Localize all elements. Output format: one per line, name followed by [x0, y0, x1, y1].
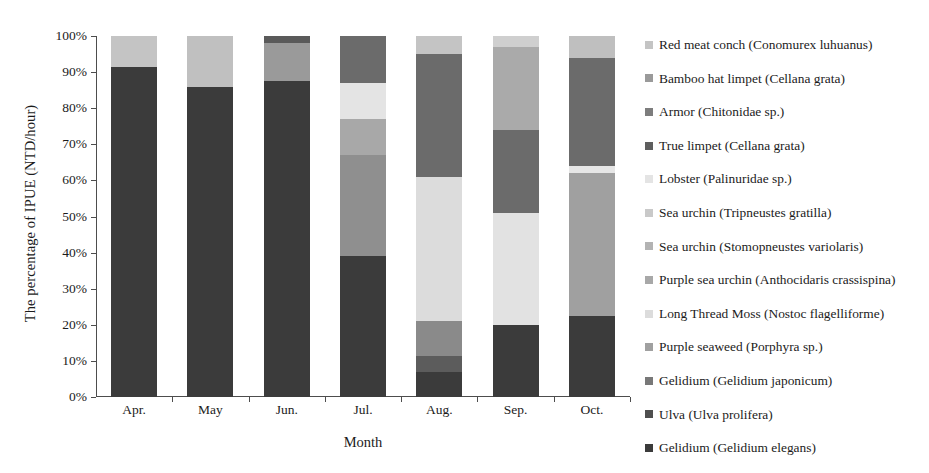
legend-item[interactable]: Purple sea urchin (Anthocidaris crassisp… — [645, 263, 929, 297]
legend-swatch-icon — [645, 74, 653, 82]
legend-label: True limpet (Cellana grata) — [659, 139, 805, 152]
bar-aug[interactable] — [416, 36, 462, 397]
legend-item[interactable]: Purple seaweed (Porphyra sp.) — [645, 330, 929, 364]
bar-segment[interactable] — [111, 67, 157, 397]
bar-segment[interactable] — [569, 36, 615, 58]
bar-segment[interactable] — [569, 166, 615, 173]
bar-segment[interactable] — [493, 36, 539, 47]
y-tick-label: 10% — [62, 354, 87, 368]
chart-legend: Red meat conch (Conomurex luhuanus)Bambo… — [645, 28, 929, 465]
legend-label: Gelidium (Gelidium japonicum) — [659, 374, 832, 387]
bar-segment[interactable] — [416, 321, 462, 355]
legend-item[interactable]: Armor (Chitonidae sp.) — [645, 95, 929, 129]
bar-segment[interactable] — [187, 87, 233, 397]
y-tick — [91, 72, 96, 73]
bar-segment[interactable] — [569, 173, 615, 316]
bar-segment[interactable] — [340, 256, 386, 397]
legend-label: Bamboo hat limpet (Cellana grata) — [659, 72, 845, 85]
x-axis-title: Month — [96, 434, 630, 451]
legend-swatch-icon — [645, 310, 653, 318]
y-tick — [91, 325, 96, 326]
y-tick-label: 60% — [62, 174, 87, 188]
bar-segment[interactable] — [187, 36, 233, 87]
bar-segment[interactable] — [340, 119, 386, 155]
bar-segment[interactable] — [416, 356, 462, 372]
bar-jul[interactable] — [340, 36, 386, 397]
legend-swatch-icon — [645, 410, 653, 418]
bar-segment[interactable] — [340, 155, 386, 256]
bar-segment[interactable] — [569, 58, 615, 166]
y-tick — [91, 253, 96, 254]
bar-oct[interactable] — [569, 36, 615, 397]
legend-swatch-icon — [645, 276, 653, 284]
legend-item[interactable]: Lobster (Palinuridae sp.) — [645, 162, 929, 196]
y-tick — [91, 108, 96, 109]
legend-swatch-icon — [645, 175, 653, 183]
legend-item[interactable]: Ulva (Ulva prolifera) — [645, 398, 929, 432]
legend-label: Sea urchin (Stomopneustes variolaris) — [659, 240, 863, 253]
y-tick-label: 50% — [62, 210, 87, 224]
bar-apr[interactable] — [111, 36, 157, 397]
legend-swatch-icon — [645, 444, 653, 452]
legend-label: Armor (Chitonidae sp.) — [659, 105, 784, 118]
y-tick — [91, 217, 96, 218]
bar-segment[interactable] — [493, 47, 539, 130]
legend-item[interactable]: Gelidium (Gelidium japonicum) — [645, 364, 929, 398]
legend-item[interactable]: Red meat conch (Conomurex luhuanus) — [645, 28, 929, 62]
bar-jun[interactable] — [264, 36, 310, 397]
legend-label: Sea urchin (Tripneustes gratilla) — [659, 206, 831, 219]
legend-swatch-icon — [645, 142, 653, 150]
y-tick-label: 30% — [62, 282, 87, 296]
plot-area: 0%10%20%30%40%50%60%70%80%90%100% Apr.Ma… — [96, 36, 630, 397]
bar-segment[interactable] — [416, 36, 462, 54]
legend-swatch-icon — [645, 377, 653, 385]
legend-label: Lobster (Palinuridae sp.) — [659, 172, 792, 185]
legend-label: Red meat conch (Conomurex luhuanus) — [659, 38, 872, 51]
bar-segment[interactable] — [111, 36, 157, 67]
y-tick-label: 70% — [62, 138, 87, 152]
y-tick-label: 90% — [62, 65, 87, 79]
y-tick — [91, 180, 96, 181]
legend-swatch-icon — [645, 209, 653, 217]
legend-item[interactable]: Bamboo hat limpet (Cellana grata) — [645, 62, 929, 96]
bar-segment[interactable] — [340, 36, 386, 83]
legend-label: Purple seaweed (Porphyra sp.) — [659, 340, 823, 353]
bar-segment[interactable] — [340, 83, 386, 119]
legend-label: Ulva (Ulva prolifera) — [659, 408, 773, 421]
bar-segment[interactable] — [264, 36, 310, 43]
legend-item[interactable]: Long Thread Moss (Nostoc flagelliforme) — [645, 297, 929, 331]
y-tick — [91, 36, 96, 37]
bar-segment[interactable] — [416, 372, 462, 397]
legend-item[interactable]: Gelidium (Gelidium elegans) — [645, 431, 929, 465]
y-tick — [91, 361, 96, 362]
y-axis-line — [96, 36, 97, 397]
legend-item[interactable]: Sea urchin (Tripneustes gratilla) — [645, 196, 929, 230]
stacked-bar-chart: The percentage of IPUE (NTD/hour) 0%10%2… — [0, 0, 929, 473]
y-tick-label: 20% — [62, 318, 87, 332]
bar-sep[interactable] — [493, 36, 539, 397]
legend-swatch-icon — [645, 108, 653, 116]
bar-segment[interactable] — [264, 43, 310, 81]
legend-swatch-icon — [645, 343, 653, 351]
bar-segment[interactable] — [416, 177, 462, 321]
y-tick-label: 100% — [56, 29, 88, 43]
x-category-label: Oct. — [532, 402, 652, 418]
y-tick-label: 80% — [62, 101, 87, 115]
bar-segment[interactable] — [493, 325, 539, 397]
legend-item[interactable]: Sea urchin (Stomopneustes variolaris) — [645, 230, 929, 264]
bar-segment[interactable] — [569, 316, 615, 397]
bar-may[interactable] — [187, 36, 233, 397]
legend-swatch-icon — [645, 242, 653, 250]
bar-segment[interactable] — [493, 213, 539, 325]
y-tick — [91, 144, 96, 145]
bar-segment[interactable] — [493, 130, 539, 213]
bar-segment[interactable] — [264, 81, 310, 397]
legend-label: Gelidium (Gelidium elegans) — [659, 441, 816, 454]
legend-item[interactable]: True limpet (Cellana grata) — [645, 129, 929, 163]
legend-swatch-icon — [645, 41, 653, 49]
bar-segment[interactable] — [416, 54, 462, 177]
y-tick — [91, 397, 96, 398]
y-tick-label: 40% — [62, 246, 87, 260]
y-axis-title: The percentage of IPUE (NTD/hour) — [22, 34, 39, 394]
legend-label: Long Thread Moss (Nostoc flagelliforme) — [659, 307, 884, 320]
